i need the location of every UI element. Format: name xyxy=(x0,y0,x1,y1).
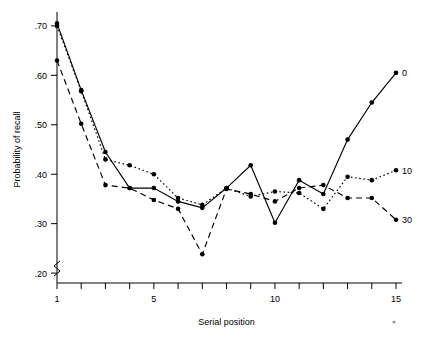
data-point xyxy=(394,168,399,173)
chart-text-labels: .20.30.40.50.60.70151015Serial positionP… xyxy=(12,21,412,327)
data-point xyxy=(321,183,326,188)
stray-mark xyxy=(392,320,395,323)
y-tick-label: .60 xyxy=(34,71,47,81)
series-0 xyxy=(55,21,399,225)
data-point xyxy=(321,192,326,197)
data-point xyxy=(273,199,278,204)
data-point xyxy=(224,187,229,192)
data-point xyxy=(79,89,84,94)
x-tick-label: 15 xyxy=(391,294,401,304)
x-axis-ticks xyxy=(57,283,396,289)
data-series-group xyxy=(55,21,399,257)
data-point xyxy=(248,192,253,197)
data-point xyxy=(369,196,374,201)
data-point xyxy=(369,178,374,183)
x-axis-title: Serial position xyxy=(198,317,255,327)
series-label-30: 30 xyxy=(402,215,412,225)
data-point xyxy=(369,100,374,105)
data-point xyxy=(55,58,60,63)
data-point xyxy=(345,174,350,179)
y-tick-label: .50 xyxy=(34,120,47,130)
data-point xyxy=(103,150,108,155)
data-point xyxy=(127,163,132,168)
data-point xyxy=(103,183,108,188)
data-point xyxy=(394,217,399,222)
y-axis-break-icon xyxy=(54,261,60,276)
x-tick-label: 10 xyxy=(270,294,280,304)
data-point xyxy=(321,207,326,212)
data-point xyxy=(297,178,302,183)
y-tick-label: .30 xyxy=(34,219,47,229)
y-tick-label: .20 xyxy=(34,269,47,279)
y-tick-label: .70 xyxy=(34,21,47,31)
data-point xyxy=(176,207,181,212)
data-point xyxy=(248,163,253,168)
data-point xyxy=(297,191,302,196)
x-tick-label: 5 xyxy=(151,294,156,304)
data-point xyxy=(394,71,399,76)
series-label-0: 0 xyxy=(402,68,407,78)
data-point xyxy=(345,196,350,201)
data-point xyxy=(297,186,302,191)
series-line-0 xyxy=(57,23,396,222)
data-point xyxy=(127,186,132,191)
data-point xyxy=(79,121,84,126)
data-point xyxy=(273,189,278,194)
y-tick-label: .40 xyxy=(34,170,47,180)
data-point xyxy=(152,186,157,191)
chart-canvas: .20.30.40.50.60.70151015Serial positionP… xyxy=(0,0,423,339)
data-point xyxy=(176,196,181,201)
data-point xyxy=(200,252,205,257)
data-point xyxy=(345,137,350,142)
data-point xyxy=(273,220,278,225)
axes xyxy=(54,12,402,283)
data-point xyxy=(200,203,205,208)
x-tick-label: 1 xyxy=(54,294,59,304)
data-point xyxy=(152,172,157,177)
y-axis-ticks xyxy=(51,26,57,273)
series-label-10: 10 xyxy=(402,166,412,176)
data-point xyxy=(55,24,60,29)
serial-position-figure: .20.30.40.50.60.70151015Serial positionP… xyxy=(0,0,423,339)
series-line-30 xyxy=(57,61,396,255)
series-line-10 xyxy=(57,26,396,209)
data-point xyxy=(103,157,108,162)
y-axis-title: Probability of recall xyxy=(12,111,22,187)
data-point xyxy=(152,198,157,203)
